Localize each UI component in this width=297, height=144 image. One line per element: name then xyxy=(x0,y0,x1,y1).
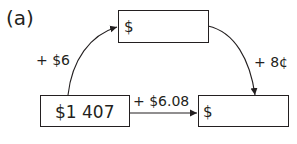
top-box: $ xyxy=(118,10,209,43)
arrow-label-plus-6-08: + $6.08 xyxy=(133,93,189,109)
left-box: $1 407 xyxy=(40,95,130,127)
arrow-left-to-top xyxy=(68,27,117,95)
part-label: (a) xyxy=(6,6,34,30)
top-box-text: $ xyxy=(124,18,134,36)
left-box-text: $1 407 xyxy=(55,102,114,122)
right-box-text: $ xyxy=(203,103,213,121)
arrow-top-to-right xyxy=(208,26,255,95)
right-box: $ xyxy=(198,95,289,127)
arrow-label-plus-8-cents: + 8¢ xyxy=(254,54,288,70)
arrow-label-plus-6: + $6 xyxy=(36,52,70,68)
